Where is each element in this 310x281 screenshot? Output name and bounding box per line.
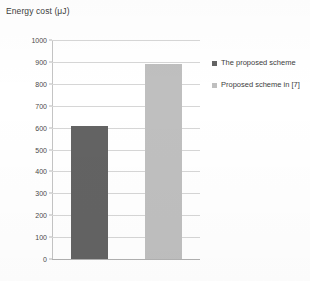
bar [71,126,108,259]
y-axis-tick-label: 200 [35,212,47,219]
grid-line [52,259,200,260]
y-axis-tick-mark [49,259,52,260]
legend-item[interactable]: The proposed scheme [212,52,308,74]
legend-label: The proposed scheme [221,59,296,67]
y-axis-tick-mark [49,127,52,128]
y-axis-tick-mark [49,149,52,150]
grid-line [52,40,200,41]
chart-legend: The proposed schemeProposed scheme in [7… [212,52,308,96]
y-axis-tick-mark [49,105,52,106]
y-axis-tick-label: 0 [43,256,47,263]
y-axis-tick-mark [49,215,52,216]
plot-area: 01002003004005006007008009001000 [52,40,200,259]
y-axis-tick-label: 700 [35,102,47,109]
y-axis-tick-mark [49,83,52,84]
legend-item[interactable]: Proposed scheme in [7] [212,74,308,96]
legend-swatch-icon [212,83,217,88]
y-axis-tick-label: 100 [35,234,47,241]
bar [145,64,182,259]
y-axis-tick-label: 500 [35,146,47,153]
grid-line [52,62,200,63]
chart-title: Energy cost (μJ) [6,6,70,16]
y-axis-tick-label: 900 [35,58,47,65]
y-axis-tick-label: 1000 [31,37,47,44]
y-axis-tick-mark [49,237,52,238]
y-axis-tick-label: 600 [35,124,47,131]
y-axis-tick-mark [49,61,52,62]
y-axis-tick-mark [49,171,52,172]
y-axis-tick-mark [49,193,52,194]
y-axis-tick-label: 400 [35,168,47,175]
legend-swatch-icon [212,61,217,66]
y-axis-tick-label: 800 [35,80,47,87]
legend-label: Proposed scheme in [7] [221,81,300,89]
y-axis-tick-mark [49,40,52,41]
y-axis-tick-label: 300 [35,190,47,197]
